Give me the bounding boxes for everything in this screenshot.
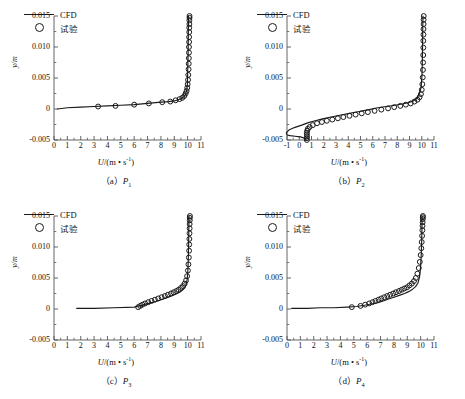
y-tick-label: -0.005 (29, 136, 50, 144)
x-tick-label: 9 (405, 342, 409, 350)
x-axis-ticks: 01234567891011 (54, 342, 201, 354)
panel-c: CFD 试验 y/m 0.0150.0100.0050-0.005 012345… (0, 200, 232, 399)
x-tick-label: 0 (52, 342, 56, 350)
x-axis-ticks: 01234567891011 (287, 342, 434, 354)
panel-d: CFD 试验 y/m 0.0150.0100.0050-0.005 012345… (233, 200, 465, 399)
y-tick-label: 0.010 (32, 43, 50, 51)
x-tick-label: 8 (159, 342, 163, 350)
y-tick-label: -0.005 (29, 336, 50, 344)
x-tick-label: 5 (359, 142, 363, 150)
x-tick-label: 7 (379, 342, 383, 350)
y-tick-label: 0.005 (265, 274, 283, 282)
x-tick-label: 6 (132, 142, 136, 150)
panel-b: CFD 试验 y/m 0.0150.0100.0050-0.005 -10123… (233, 0, 465, 199)
x-tick-label: 11 (430, 342, 438, 350)
x-tick-label: 8 (159, 142, 163, 150)
panel-a: CFD 试验 y/m 0.0150.0100.0050-0.005 012345… (0, 0, 232, 199)
x-tick-label: 8 (392, 342, 396, 350)
x-tick-label: 2 (322, 142, 326, 150)
y-axis-ticks: 0.0150.0100.0050-0.005 (233, 16, 283, 140)
y-tick-label: -0.005 (262, 336, 283, 344)
y-tick-label: 0.015 (265, 212, 283, 220)
y-tick-label: 0 (279, 305, 283, 313)
x-axis-label: U/(m • s-1) (0, 356, 232, 367)
x-tick-label: 1 (298, 342, 302, 350)
x-axis-ticks: -101234567891011 (287, 142, 434, 154)
y-axis-ticks: 0.0150.0100.0050-0.005 (0, 216, 50, 340)
x-tick-label: 4 (105, 342, 109, 350)
x-tick-label: 11 (197, 142, 205, 150)
x-tick-label: 5 (119, 342, 123, 350)
x-tick-label: 9 (172, 342, 176, 350)
panel-caption: （d）P4 (233, 374, 465, 388)
panel-caption: （a）P1 (0, 174, 232, 188)
plot-area-b (287, 16, 434, 140)
y-tick-label: -0.005 (262, 136, 283, 144)
y-axis-ticks: 0.0150.0100.0050-0.005 (0, 16, 50, 140)
x-tick-label: 2 (312, 342, 316, 350)
y-tick-label: 0.015 (265, 12, 283, 20)
y-tick-label: 0 (46, 305, 50, 313)
x-tick-label: 7 (146, 142, 150, 150)
x-tick-label: -1 (284, 142, 291, 150)
x-tick-label: 4 (338, 342, 342, 350)
y-axis-ticks: 0.0150.0100.0050-0.005 (233, 216, 283, 340)
x-tick-label: 3 (334, 142, 338, 150)
x-tick-label: 5 (119, 142, 123, 150)
y-tick-label: 0.005 (265, 74, 283, 82)
x-tick-label: 2 (79, 142, 83, 150)
x-tick-label: 1 (310, 142, 314, 150)
x-tick-label: 10 (417, 342, 425, 350)
x-tick-label: 0 (297, 142, 301, 150)
x-tick-label: 2 (79, 342, 83, 350)
x-tick-label: 5 (352, 342, 356, 350)
x-tick-label: 0 (52, 142, 56, 150)
y-tick-label: 0.015 (32, 212, 50, 220)
x-tick-label: 3 (92, 342, 96, 350)
y-tick-label: 0.005 (32, 74, 50, 82)
y-tick-label: 0.010 (265, 243, 283, 251)
x-tick-label: 10 (184, 142, 192, 150)
x-axis-ticks: 01234567891011 (54, 142, 201, 154)
x-tick-label: 6 (132, 342, 136, 350)
x-tick-label: 4 (105, 142, 109, 150)
x-tick-label: 1 (65, 342, 69, 350)
x-tick-label: 1 (65, 142, 69, 150)
x-tick-label: 10 (418, 142, 426, 150)
x-axis-label: U/(m • s-1) (0, 156, 232, 167)
x-tick-label: 9 (408, 142, 412, 150)
x-tick-label: 11 (197, 342, 205, 350)
x-axis-label: U/(m • s-1) (233, 356, 465, 367)
x-axis-label: U/(m • s-1) (233, 156, 465, 167)
x-tick-label: 11 (430, 142, 438, 150)
y-tick-label: 0.010 (265, 43, 283, 51)
panel-caption: （c）P3 (0, 374, 232, 388)
x-tick-label: 3 (92, 142, 96, 150)
figure-velocity-profiles: CFD 试验 y/m 0.0150.0100.0050-0.005 012345… (0, 0, 465, 399)
x-tick-label: 6 (371, 142, 375, 150)
y-tick-label: 0.005 (32, 274, 50, 282)
x-tick-label: 9 (172, 142, 176, 150)
x-tick-label: 7 (383, 142, 387, 150)
y-tick-label: 0.015 (32, 12, 50, 20)
x-tick-label: 6 (365, 342, 369, 350)
y-tick-label: 0.010 (32, 243, 50, 251)
y-tick-label: 0 (46, 105, 50, 113)
x-tick-label: 8 (395, 142, 399, 150)
x-tick-label: 10 (184, 342, 192, 350)
plot-area-d (287, 216, 434, 340)
plot-area-c (54, 216, 201, 340)
plot-area-a (54, 16, 201, 140)
x-tick-label: 7 (146, 342, 150, 350)
x-tick-label: 0 (285, 342, 289, 350)
x-tick-label: 4 (346, 142, 350, 150)
panel-caption: （b）P2 (233, 174, 465, 188)
x-tick-label: 3 (325, 342, 329, 350)
y-tick-label: 0 (279, 105, 283, 113)
